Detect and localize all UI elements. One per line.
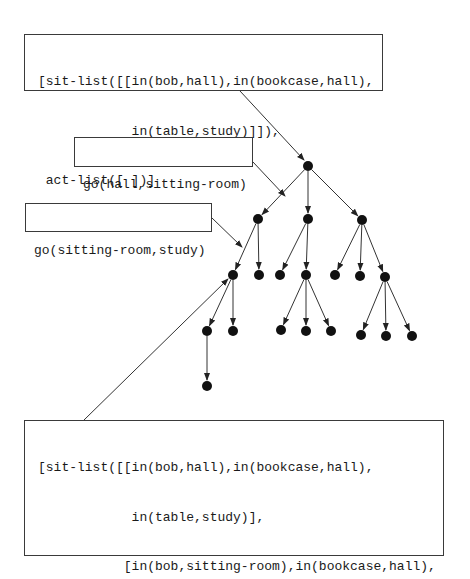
action-label-text: go(sitting-room,study) bbox=[34, 243, 211, 260]
goal-state-line: in(table,study)], bbox=[38, 510, 443, 527]
goal-state-line: [in(bob,sitting-room),in(bookcase,hall), bbox=[38, 559, 443, 576]
tree-node bbox=[202, 326, 212, 336]
tree-node bbox=[228, 270, 238, 280]
tree-edge bbox=[306, 224, 308, 269]
tree-node bbox=[301, 326, 311, 336]
tree-edge bbox=[283, 280, 303, 325]
pointer-arrow bbox=[84, 279, 228, 420]
tree-node bbox=[357, 215, 367, 225]
tree-edge bbox=[283, 223, 306, 269]
tree-node bbox=[301, 270, 311, 280]
tree-node bbox=[202, 381, 212, 391]
action-label-go-hall-sitting-room: go(hall,sitting-room) bbox=[74, 137, 253, 167]
initial-state-box: [sit-list([[in(bob,hall),in(bookcase,hal… bbox=[24, 34, 383, 91]
tree-node bbox=[356, 330, 366, 340]
pointer-arrow bbox=[212, 218, 242, 247]
tree-node bbox=[276, 325, 286, 335]
tree-edge bbox=[387, 282, 409, 331]
tree-node bbox=[253, 214, 263, 224]
tree-edge bbox=[338, 224, 360, 269]
tree-node bbox=[228, 326, 238, 336]
tree-node bbox=[254, 270, 264, 280]
tree-node bbox=[380, 272, 390, 282]
goal-state-line: [sit-list([[in(bob,hall),in(bookcase,hal… bbox=[38, 460, 443, 477]
tree-edge bbox=[364, 225, 383, 272]
tree-node bbox=[381, 331, 391, 341]
tree-edge bbox=[235, 224, 256, 270]
tree-node bbox=[355, 271, 365, 281]
action-label-go-sitting-room-study: go(sitting-room,study) bbox=[25, 203, 212, 232]
tree-edge bbox=[308, 280, 329, 326]
tree-node bbox=[303, 214, 313, 224]
goal-state-box: [sit-list([[in(bob,hall),in(bookcase,hal… bbox=[24, 420, 444, 556]
initial-state-line: [sit-list([[in(bob,hall),in(bookcase,hal… bbox=[38, 74, 382, 91]
tree-edge bbox=[360, 225, 362, 270]
tree-node bbox=[407, 331, 417, 341]
action-label-text: go(hall,sitting-room) bbox=[83, 177, 252, 194]
tree-edge bbox=[385, 282, 386, 330]
tree-node bbox=[326, 326, 336, 336]
tree-edge bbox=[258, 224, 259, 269]
tree-node bbox=[330, 270, 340, 280]
tree-edge bbox=[363, 282, 383, 330]
tree-node bbox=[275, 270, 285, 280]
